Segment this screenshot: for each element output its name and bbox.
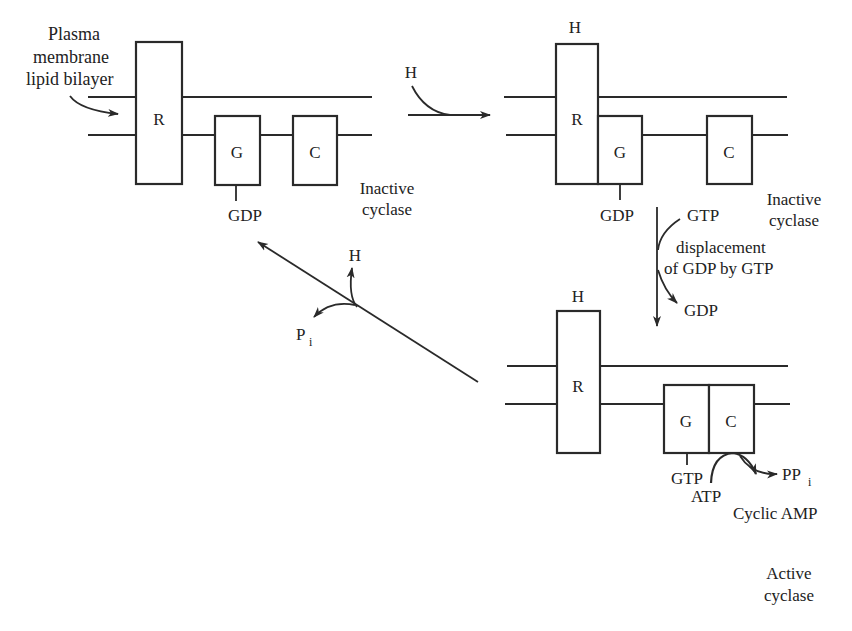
membrane-pointer-arrow-icon [70,96,118,114]
receptor-label: R [153,110,165,129]
hormone-release-label: H [349,246,361,265]
g-protein-label: G [231,143,243,162]
arrow-hydrolysis-return: H P i [258,242,478,382]
gdp-label: GDP [600,206,634,225]
membrane-label-line1: Plasma [48,24,100,44]
exchange-label-line1: displacement [676,238,766,257]
membrane-label-line2: membrane [33,47,109,67]
arrow-hormone-binding: H [405,63,490,115]
g-protein-label: G [614,143,626,162]
panel-inactive-2: H R G C GDP Inactive cyclase [504,18,821,230]
exchange-label-line2: of GDP by GTP [664,259,773,278]
gdp-label: GDP [228,206,262,225]
pi-subscript: i [309,335,313,349]
g-protein-label: G [680,412,692,431]
state-label-line2: cyclase [362,200,412,219]
atp-conversion-arrow-icon [711,453,756,483]
ppi-subscript: i [808,475,812,489]
atp-label: ATP [691,487,721,506]
gtp-label: GTP [671,469,703,488]
state-label-line2: cyclase [764,586,814,605]
pi-label: P [296,325,305,344]
receptor-label: R [571,110,583,129]
hormone-input-label: H [405,63,417,82]
panel-inactive-1: Plasma membrane lipid bilayer R G C GDP … [26,24,414,225]
receptor-label: R [572,377,584,396]
state-label-line2: cyclase [769,211,819,230]
ppi-label: PP [782,465,801,484]
state-label-line1: Inactive [767,190,822,209]
cyclase-label: C [723,143,734,162]
cyclic-amp-label: Cyclic AMP [733,504,818,523]
membrane-label-line3: lipid bilayer [26,69,113,89]
arrow-gtp-exchange: GTP displacement of GDP by GTP GDP [657,206,773,326]
panel-active: H R G C GTP ATP PP i Cyclic AMP Active c… [505,287,818,605]
gdp-output-label: GDP [684,301,718,320]
cyclase-label: C [309,143,320,162]
gtp-input-label: GTP [687,206,719,225]
state-label-line1: Active [766,564,811,583]
state-label-line1: Inactive [360,179,415,198]
hormone-label: H [569,18,581,37]
diagram-canvas: Plasma membrane lipid bilayer R G C GDP … [0,0,852,631]
cyclase-label: C [725,412,736,431]
hormone-label: H [572,287,584,306]
